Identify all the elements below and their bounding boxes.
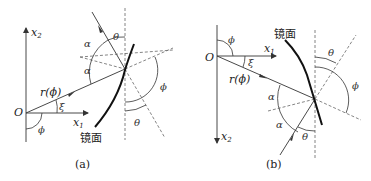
xi-label-a: ξ: [59, 101, 65, 112]
x1-label-b: x1: [264, 42, 275, 56]
normal-dashed-a: [80, 50, 173, 57]
phi-origin-label-a: ϕ: [38, 124, 45, 135]
phi-right-label-b: ϕ: [352, 80, 359, 91]
extended-ray-a: [125, 69, 165, 138]
phi-arc-right-b: [315, 67, 349, 113]
mirror-curve-a: [95, 44, 134, 127]
mirror-label-a: 镜面: [80, 131, 102, 145]
mirror-label-b: 镜面: [274, 27, 296, 41]
panel-b: x2 x1 O r(ϕ) ξ ϕ α α θ θ ϕ 镜面 (b): [205, 25, 361, 171]
xi-label-b: ξ: [248, 57, 254, 68]
panel-a: x2 x1 O r(ϕ) ξ ϕ α α θ θ ϕ 镜面 (a): [14, 8, 173, 171]
x1-label-a: x1: [73, 116, 84, 130]
incident-ray-b: [280, 99, 315, 155]
caption-b: (b): [266, 158, 282, 171]
mirror-curve-b: [285, 40, 322, 125]
theta-top-label-a: θ: [113, 31, 119, 42]
x2-label-a: x2: [31, 26, 42, 40]
xi-arc-b: [243, 56, 245, 67]
xi-arc-a: [56, 100, 57, 113]
alpha-bottom-label-a: α: [84, 65, 91, 76]
mirror-reflection-diagram: x2 x1 O r(ϕ) ξ ϕ α α θ θ ϕ 镜面 (a): [0, 0, 371, 181]
theta-bottom-label-b: θ: [302, 131, 308, 142]
phi-right-label-a: ϕ: [160, 81, 167, 92]
x2-label-b: x2: [221, 130, 232, 144]
normal-dashed-b2: [315, 99, 361, 120]
theta-bottom-label-a: θ: [134, 117, 140, 128]
origin-label-a: O: [14, 106, 23, 119]
caption-a: (a): [75, 158, 90, 171]
radius-label-a: r(ϕ): [40, 86, 61, 99]
incident-ray-a: [92, 12, 125, 69]
origin-label-b: O: [205, 51, 214, 64]
alpha-top-label-b: α: [268, 91, 275, 102]
theta-arc-bottom-a: [125, 105, 146, 111]
alpha-top-label-a: α: [84, 38, 91, 49]
radius-label-b: r(ϕ): [229, 73, 250, 86]
incident-arrow-icon-b: [290, 133, 294, 141]
alpha-bottom-label-b: α: [276, 119, 283, 130]
phi-origin-label-b: ϕ: [228, 34, 235, 45]
extended-ray-b: [315, 35, 356, 99]
radius-arrow-icon-b: [259, 74, 267, 79]
phi-arc-right-a: [125, 57, 158, 102]
theta-top-label-b: θ: [328, 47, 334, 58]
normal-dashed-b: [268, 99, 315, 111]
